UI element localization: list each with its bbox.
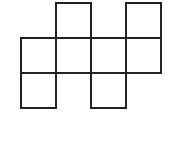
grid-square	[55, 2, 92, 39]
cube-net-diagram	[0, 0, 172, 145]
grid-square	[55, 37, 92, 74]
grid-square	[125, 37, 162, 74]
grid-square	[90, 37, 127, 74]
grid-square	[90, 72, 127, 109]
grid-square	[20, 37, 57, 74]
grid-square	[125, 2, 162, 39]
grid-square	[20, 72, 57, 109]
